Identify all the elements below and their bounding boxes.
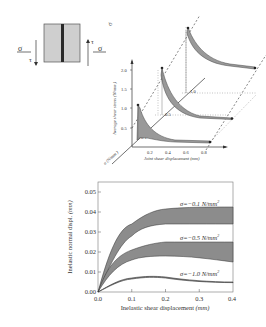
upper-x-label: Joint shear displacement (mm) xyxy=(144,156,200,161)
svg-text:0.05: 0.05 xyxy=(85,188,96,195)
upper-z-label: σ (N/mm ) xyxy=(102,150,119,166)
upper-3d-chart: σ 2.0 1.5 1.0 0.5 Average shear stress (… xyxy=(102,15,266,166)
curve-sigma-0.1 xyxy=(137,104,212,144)
svg-text:1.0: 1.0 xyxy=(190,89,196,94)
tau-label-left: τ xyxy=(29,56,32,64)
sigma-label-left: σ xyxy=(18,44,23,53)
sigma-label-right: σ xyxy=(98,44,103,53)
joint-schematic: σ τ σ τ xyxy=(17,24,106,66)
svg-text:0.03: 0.03 xyxy=(85,228,96,235)
upper-y-label: Average shear stress (N/mm ) xyxy=(112,81,117,136)
svg-text:1.5: 1.5 xyxy=(121,87,127,92)
svg-text:0.2: 0.2 xyxy=(161,295,169,302)
svg-text:0.01: 0.01 xyxy=(85,268,96,275)
lower-y-label: Inelastic normal displ. (mm) xyxy=(66,200,74,273)
joint-line xyxy=(61,24,64,62)
lower-y-tick-labels: 0.05 0.04 0.03 0.02 0.01 0.00 xyxy=(85,188,97,295)
svg-text:0.6: 0.6 xyxy=(183,150,189,155)
tau-label-right: τ xyxy=(91,38,94,46)
svg-text:0.4: 0.4 xyxy=(228,295,237,302)
svg-text:0.00: 0.00 xyxy=(85,288,96,295)
lower-chart: 0.05 0.04 0.03 0.02 0.01 0.00 0.0 0.1 0.… xyxy=(66,182,237,312)
arrow-head-icon xyxy=(34,62,38,66)
svg-text:0.02: 0.02 xyxy=(85,248,96,255)
arrow-head-icon xyxy=(223,146,228,149)
lower-x-label: Inelastic shear displacement (mm) xyxy=(121,304,210,312)
label-sigma-1.0: σ=−1.0 N/mm2 xyxy=(180,269,219,277)
y-tick-labels: 2.0 1.5 1.0 0.5 xyxy=(121,68,127,131)
label-sigma-0.1: σ=−0.1 N/mm2 xyxy=(180,199,219,207)
svg-text:0.0: 0.0 xyxy=(94,295,102,302)
curve-sigma-1.0 xyxy=(186,27,256,93)
svg-text:0.1: 0.1 xyxy=(128,295,136,302)
svg-text:0.5: 0.5 xyxy=(121,126,127,131)
arrow-head-icon xyxy=(86,39,90,43)
svg-text:0.5: 0.5 xyxy=(165,112,171,117)
curve-sigma-0.5 xyxy=(161,67,234,120)
svg-text:0.2: 0.2 xyxy=(147,150,153,155)
figure: σ τ σ τ σ 2.0 1.5 1.0 0.5 Average shear … xyxy=(0,0,266,327)
svg-text:0.3: 0.3 xyxy=(195,295,203,302)
svg-text:0.04: 0.04 xyxy=(85,208,97,215)
svg-text:0.4: 0.4 xyxy=(165,150,171,155)
sigma-rotated-label: σ xyxy=(106,22,114,26)
arrow-head-icon xyxy=(131,59,134,64)
svg-text:2.0: 2.0 xyxy=(121,68,127,73)
lower-x-tick-labels: 0.0 0.1 0.2 0.3 0.4 xyxy=(94,295,237,302)
x-tick-labels: 0.2 0.4 0.6 0.8 xyxy=(147,150,207,155)
svg-text:1.0: 1.0 xyxy=(121,106,127,111)
svg-text:0.8: 0.8 xyxy=(201,150,207,155)
label-sigma-0.5: σ=−0.5 N/mm2 xyxy=(180,233,219,241)
